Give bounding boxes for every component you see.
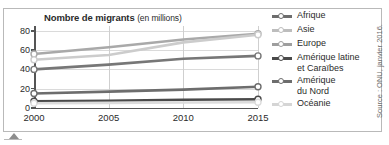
legend-symbol-icon	[272, 53, 292, 64]
x-tick-label-2000: 2000	[23, 112, 44, 123]
y-tick-label-20: 20	[20, 84, 30, 94]
data-point-marker	[31, 91, 37, 97]
y-tick-label-40: 40	[20, 64, 30, 74]
data-point-marker	[31, 100, 37, 106]
legend-symbol-icon	[272, 76, 292, 87]
chart-area: Nombre de migrants (en millions) 0204060…	[8, 12, 266, 128]
series-line-amérique-latine-et-caraïbes	[34, 99, 258, 101]
legend-item-amérique-latine[interactable]: Amérique latine et Caraïbes	[272, 52, 360, 73]
data-point-marker	[255, 84, 261, 90]
legend-symbol-icon	[272, 11, 292, 22]
data-point-marker	[31, 66, 37, 72]
x-tick-label-2005: 2005	[98, 112, 119, 123]
legend-item-europe[interactable]: Europe	[272, 38, 360, 50]
chart-title-main: Nombre de migrants	[44, 12, 135, 23]
source-note: Source : ONU, janvier 2016.	[375, 24, 384, 118]
legend-item-label: Afrique	[297, 10, 326, 21]
chart-title-unit: (en millions)	[137, 13, 182, 23]
chart-legend: AfriqueAsieEuropeAmérique latine et Cara…	[272, 10, 360, 130]
legend-item-asie[interactable]: Asie	[272, 24, 360, 36]
legend-item-label: Asie	[297, 24, 315, 35]
series-line-océanie	[34, 102, 258, 103]
y-tick-label-80: 80	[20, 26, 30, 36]
legend-item-label: Amérique latine et Caraïbes	[297, 52, 360, 73]
migration-chart-figure: Nombre de migrants (en millions) 0204060…	[0, 0, 389, 145]
legend-item-amérique[interactable]: Amérique du Nord	[272, 75, 360, 96]
x-tick-label-2015: 2015	[247, 112, 268, 123]
legend-item-label: Océanie	[297, 98, 331, 109]
legend-item-label: Europe	[297, 38, 326, 49]
source-note-wrapper: Source : ONU, janvier 2016.	[373, 14, 385, 128]
data-point-marker	[255, 53, 261, 59]
data-point-marker	[255, 32, 261, 38]
legend-symbol-icon	[272, 25, 292, 36]
series-line-afrique	[34, 87, 258, 94]
x-tick-label-2010: 2010	[173, 112, 194, 123]
legend-item-océanie[interactable]: Océanie	[272, 98, 360, 110]
series-lines	[34, 26, 258, 108]
legend-symbol-icon	[272, 99, 292, 110]
plot-area: 020406080 2000200520102015	[34, 26, 258, 108]
legend-symbol-icon	[272, 39, 292, 50]
data-point-marker	[31, 57, 37, 63]
legend-item-afrique[interactable]: Afrique	[272, 10, 360, 22]
series-line-asie	[34, 34, 258, 54]
data-point-marker	[255, 99, 261, 105]
legend-item-label: Amérique du Nord	[297, 75, 336, 96]
y-tick-label-60: 60	[20, 45, 30, 55]
chart-title: Nombre de migrants (en millions)	[44, 12, 182, 23]
corner-rule	[4, 139, 22, 140]
